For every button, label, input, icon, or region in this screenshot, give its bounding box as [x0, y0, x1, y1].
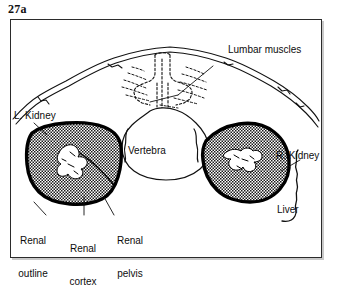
label-renal-pelvis: Renal pelvis: [107, 213, 153, 289]
label-renal-cortex: Renal cortex: [60, 221, 106, 289]
figure-number: 27a: [8, 2, 27, 16]
label-lumbar-muscles: Lumbar muscles: [228, 44, 301, 55]
label-renal-cortex-line2: cortex: [60, 276, 106, 287]
lumbar-muscles: [122, 67, 207, 108]
label-liver: Liver: [277, 204, 299, 215]
label-renal-outline-line2: outline: [10, 268, 56, 279]
right-kidney: [203, 123, 290, 202]
label-renal-outline-line1: Renal: [10, 235, 56, 246]
label-renal-pelvis-line1: Renal: [107, 235, 153, 246]
label-renal-cortex-line1: Renal: [60, 243, 106, 254]
label-vertebra: Vertebra: [128, 145, 166, 156]
label-right-kidney: R. Kidney: [276, 150, 319, 161]
label-renal-pelvis-line2: pelvis: [107, 268, 153, 279]
label-renal-outline: Renal outline: [10, 213, 56, 289]
label-left-kidney: L. Kidney: [14, 110, 56, 121]
left-kidney: [27, 123, 122, 205]
leader-lumbar-muscles-2: [150, 95, 178, 102]
